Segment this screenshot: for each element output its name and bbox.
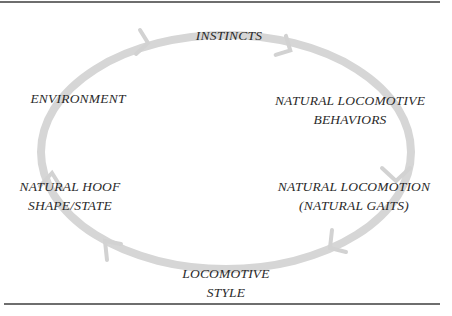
node-label-line: ENVIRONMENT	[22, 89, 134, 108]
node-locomotive-style: LOCOMOTIVE STYLE	[166, 264, 286, 302]
node-label-line: (NATURAL GAITS)	[254, 196, 452, 215]
node-label-line: LOCOMOTIVE	[166, 264, 286, 283]
node-label-line: NATURAL LOCOMOTIVE	[250, 91, 450, 110]
node-instincts: INSTINCTS	[184, 26, 274, 45]
node-label-line: NATURAL HOOF	[2, 177, 138, 196]
node-natural-hoof-shape: NATURAL HOOF SHAPE/STATE	[2, 177, 138, 215]
node-label-line: SHAPE/STATE	[2, 196, 138, 215]
bottom-rule	[4, 303, 440, 305]
node-label-line: INSTINCTS	[184, 26, 274, 45]
node-label-line: STYLE	[166, 283, 286, 302]
node-label-line: NATURAL LOCOMOTION	[254, 177, 452, 196]
cycle-ellipse	[41, 35, 411, 269]
node-environment: ENVIRONMENT	[22, 89, 134, 108]
node-natural-locomotive-behaviors: NATURAL LOCOMOTIVE BEHAVIORS	[250, 91, 450, 129]
node-natural-locomotion: NATURAL LOCOMOTION (NATURAL GAITS)	[254, 177, 452, 215]
node-label-line: BEHAVIORS	[250, 110, 450, 129]
